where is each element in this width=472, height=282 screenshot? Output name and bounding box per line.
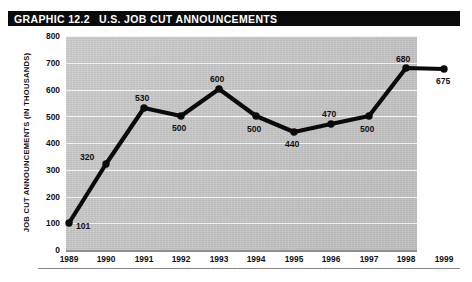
data-point-1992 [177, 112, 184, 119]
series-line-job-cuts [69, 68, 444, 223]
chart-figure: GRAPHIC 12.2U.S. JOB CUT ANNOUNCEMENTS J… [0, 0, 472, 282]
data-point-1990 [102, 160, 109, 167]
point-label-1991: 530 [135, 93, 149, 103]
data-point-1998 [402, 64, 409, 71]
data-point-1995 [290, 128, 297, 135]
point-label-1992: 500 [172, 123, 186, 133]
data-point-1993 [215, 85, 222, 92]
point-label-1995: 440 [285, 139, 299, 149]
bottom-divider [38, 268, 460, 269]
point-label-1999: 675 [436, 76, 450, 86]
data-point-1996 [327, 120, 334, 127]
point-label-1994: 500 [247, 124, 261, 134]
data-point-1989 [65, 219, 72, 226]
point-label-1996: 470 [322, 109, 336, 119]
point-label-1997: 500 [360, 124, 374, 134]
data-point-1997 [365, 112, 372, 119]
data-point-1999 [440, 65, 447, 72]
series-graphic [0, 0, 472, 282]
point-label-1990: 320 [80, 152, 94, 162]
point-label-1998: 680 [396, 54, 410, 64]
data-point-1994 [252, 112, 259, 119]
point-label-1993: 600 [210, 74, 224, 84]
data-point-1991 [140, 104, 147, 111]
point-label-1989: 101 [76, 221, 90, 231]
